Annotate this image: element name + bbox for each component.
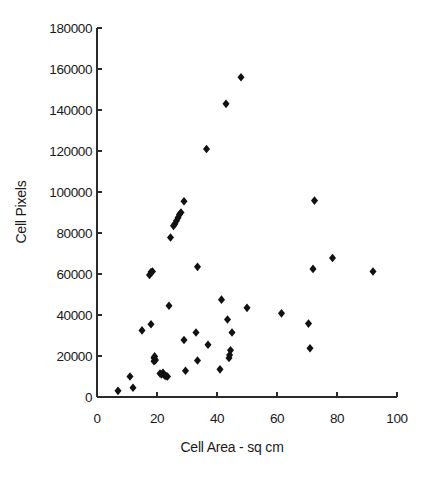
data-point-marker xyxy=(309,265,316,274)
data-point-marker xyxy=(138,326,145,335)
y-tick-label: 60000 xyxy=(56,267,92,282)
y-tick-label: 120000 xyxy=(49,144,92,159)
x-tick-label: 100 xyxy=(386,411,407,426)
data-point-marker xyxy=(278,309,285,318)
x-axis-title-text: Cell Area - sq cm xyxy=(180,439,283,455)
data-point-marker xyxy=(306,344,313,353)
y-tick-label: 0 xyxy=(85,390,92,405)
data-point-marker xyxy=(147,320,154,329)
x-tick-label: 80 xyxy=(330,411,344,426)
chart-canvas: Cell Pixels 0200004000060000800001000001… xyxy=(0,0,433,487)
data-point-marker xyxy=(218,295,225,304)
data-point-marker xyxy=(194,263,201,272)
data-point-marker xyxy=(228,328,235,337)
x-axis-title: Cell Area - sq cm xyxy=(180,439,283,455)
data-point-marker xyxy=(243,304,250,313)
x-axis-tick-labels: 020406080100 xyxy=(93,411,407,426)
data-point-marker xyxy=(129,383,136,392)
data-point-marker xyxy=(204,340,211,349)
data-point-marker xyxy=(329,254,336,263)
x-tick-label: 60 xyxy=(270,411,284,426)
x-tick-label: 40 xyxy=(210,411,224,426)
data-point-layer xyxy=(114,73,376,395)
data-point-marker xyxy=(182,366,189,375)
data-point-marker xyxy=(311,196,318,205)
data-point-marker xyxy=(222,100,229,109)
y-tick-label: 140000 xyxy=(49,103,92,118)
data-point-marker xyxy=(167,233,174,242)
scatter-plot-figure: Cell Pixels 0200004000060000800001000001… xyxy=(0,0,433,487)
y-tick-label: 180000 xyxy=(49,21,92,36)
x-tick-label: 0 xyxy=(93,411,100,426)
data-point-marker xyxy=(224,315,231,324)
data-point-marker xyxy=(180,336,187,345)
data-point-marker xyxy=(203,145,210,154)
y-tick-label: 80000 xyxy=(56,226,92,241)
data-point-marker xyxy=(237,73,244,82)
data-point-marker xyxy=(165,301,172,310)
data-point-marker xyxy=(369,267,376,276)
y-tick-label: 100000 xyxy=(49,185,92,200)
y-tick-label: 40000 xyxy=(56,308,92,323)
y-axis-title-text: Cell Pixels xyxy=(13,180,29,243)
data-point-marker xyxy=(216,365,223,374)
y-axis-tick-labels: 0200004000060000800001000001200001400001… xyxy=(49,21,92,405)
data-point-marker xyxy=(192,328,199,337)
data-point-marker xyxy=(126,372,133,381)
y-tick-label: 20000 xyxy=(56,349,92,364)
data-point-marker xyxy=(114,387,121,396)
data-point-marker xyxy=(180,197,187,206)
y-tick-label: 160000 xyxy=(49,62,92,77)
data-point-marker xyxy=(305,319,312,328)
y-axis-title: Cell Pixels xyxy=(13,180,29,243)
x-tick-label: 20 xyxy=(150,411,164,426)
data-point-marker xyxy=(194,356,201,365)
axis-tick-marks xyxy=(97,28,397,397)
